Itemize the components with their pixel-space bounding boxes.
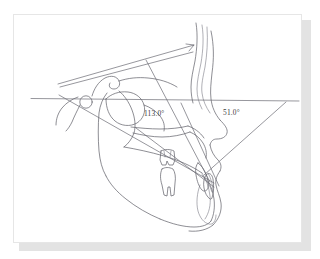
basion-occipital-contour xyxy=(56,97,78,125)
lower-incisor-angle-label: 51.0° xyxy=(223,108,240,117)
anterior-nasal-spine-contour xyxy=(190,132,206,158)
soft-tissue-forehead-nose xyxy=(211,31,220,120)
nose-tip-columella xyxy=(210,120,227,145)
orbital-rim-contour xyxy=(106,92,145,126)
occlusal-reference-ray xyxy=(181,103,219,186)
cephalometric-figure: 113.0° 51.0° xyxy=(0,0,320,259)
anterior-cranial-base xyxy=(119,78,177,87)
cephalometric-tracing-svg: 113.0° 51.0° xyxy=(14,15,302,243)
clivus-contour xyxy=(66,105,80,131)
palatal-reference-ray xyxy=(136,128,214,187)
tracing-card: 113.0° 51.0° xyxy=(13,14,302,243)
palate-lower-contour xyxy=(133,132,190,137)
cranium-outline-group xyxy=(191,23,210,113)
submental-contour xyxy=(189,225,213,231)
mandibular-lower-border xyxy=(160,219,211,227)
maxilla-palatal-plane xyxy=(131,126,188,129)
frontal-bone-contour xyxy=(191,23,197,103)
gonial-angle-contour xyxy=(106,176,160,219)
upper-lip-contour xyxy=(210,145,221,171)
condyle-ramus-posterior-border xyxy=(98,93,107,176)
cranial-base-arrowhead xyxy=(186,44,194,51)
lower-incisor-axis-line xyxy=(204,102,286,175)
lower-lip-chin-contour xyxy=(213,171,221,225)
upper-incisor-axis-line xyxy=(146,60,210,182)
lower-molar-outline xyxy=(161,168,176,197)
frontal-inner-table xyxy=(197,25,203,109)
measurement-lines-group xyxy=(31,44,299,187)
cranial-base-reference-line xyxy=(58,45,194,84)
cranial-base-secondary-ray xyxy=(60,52,193,87)
sella-turcica-circle xyxy=(80,96,92,108)
interincisal-angle-label: 113.0° xyxy=(144,109,165,118)
